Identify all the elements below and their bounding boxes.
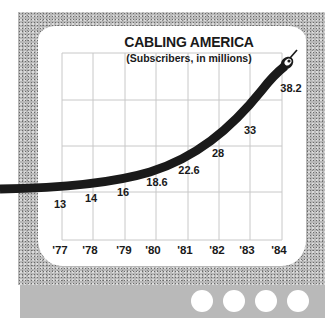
data-label: 13 [54,198,66,210]
x-tick-label: '84 [271,244,287,256]
x-tick-label: '78 [82,244,98,256]
data-label: 18.6 [146,176,167,188]
data-label: 14 [85,192,97,204]
x-tick-label: '81 [177,244,193,256]
data-label: 33 [244,124,256,136]
data-label: 16 [117,186,129,198]
x-tick-label: '83 [239,244,255,256]
cable-line [0,66,285,189]
data-label: 28 [212,147,224,159]
x-tick-label: '79 [116,244,132,256]
x-tick-label: '80 [145,244,161,256]
data-label: 38.2 [280,82,301,94]
chart-title: CABLING AMERICA [0,34,334,50]
chart-subtitle: (Subscribers, in millions) [0,52,334,64]
grid [62,53,282,240]
x-tick-label: '82 [209,244,225,256]
data-label: 22.6 [178,164,199,176]
x-tick-label: '77 [52,244,68,256]
